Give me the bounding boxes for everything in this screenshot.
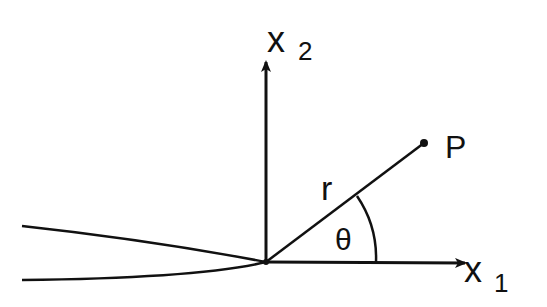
x1-axis [266, 262, 465, 263]
crack-upper-face [22, 226, 266, 262]
point-p-marker [420, 139, 428, 147]
x1-label: x [464, 249, 482, 290]
x2-label: x [267, 19, 285, 60]
point-p-label: P [445, 129, 466, 165]
crack-lower-face [22, 262, 266, 280]
radius-label: r [321, 169, 332, 207]
x1-subscript: 1 [494, 268, 508, 298]
angle-arc [357, 196, 376, 262]
theta-label: θ [335, 223, 352, 256]
origin-dot [263, 259, 269, 265]
x2-subscript: 2 [298, 36, 312, 66]
crack-tip-diagram: x 2 x 1 P r θ [0, 0, 547, 307]
